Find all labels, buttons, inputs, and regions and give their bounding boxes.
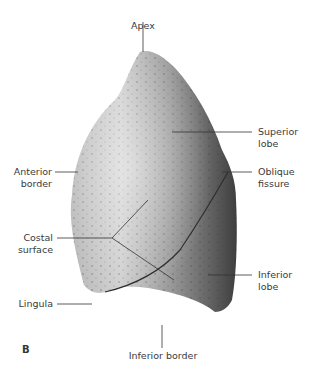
apex-text: Apex [131, 20, 155, 31]
costal-surface-text-2: surface [0, 244, 53, 256]
label-lingula: Lingula [0, 298, 53, 310]
oblique-fissure-text-2: fissure [258, 178, 295, 190]
anterior-border-text-1: Anterior [0, 166, 52, 178]
costal-surface-text-1: Costal [0, 232, 53, 244]
panel-letter: B [22, 344, 30, 355]
anterior-border-text-2: border [0, 178, 52, 190]
superior-lobe-text-2: lobe [258, 138, 298, 150]
oblique-fissure-text-1: Oblique [258, 166, 295, 178]
label-superior-lobe: Superior lobe [258, 126, 298, 150]
label-apex: Apex [128, 20, 158, 32]
inferior-border-text: Inferior border [129, 350, 198, 361]
label-oblique-fissure: Oblique fissure [258, 166, 295, 190]
inferior-lobe-text-2: lobe [258, 281, 292, 293]
lingula-text: Lingula [19, 298, 53, 309]
label-inferior-border: Inferior border [122, 350, 204, 362]
inferior-lobe-text-1: Inferior [258, 269, 292, 281]
superior-lobe-text-1: Superior [258, 126, 298, 138]
label-inferior-lobe: Inferior lobe [258, 269, 292, 293]
panel-letter-text: B [22, 344, 30, 355]
label-anterior-border: Anterior border [0, 166, 52, 190]
label-costal-surface: Costal surface [0, 232, 53, 256]
